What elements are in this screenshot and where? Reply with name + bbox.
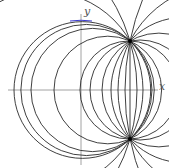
coaxal-circles-diagram: y x	[0, 0, 169, 168]
y-axis-label: y	[83, 5, 91, 18]
x-axis-label: x	[159, 80, 166, 93]
common-point-top	[128, 39, 132, 43]
common-point-bottom	[128, 137, 132, 141]
circle-family	[0, 0, 169, 168]
